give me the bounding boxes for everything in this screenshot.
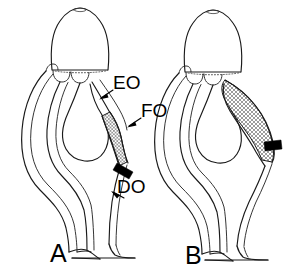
panel-label-b: B bbox=[185, 241, 202, 269]
anatomical-line-drawing: EO FO DO A B bbox=[0, 0, 287, 274]
annotation-do: DO bbox=[111, 176, 146, 199]
label-fo: FO bbox=[141, 100, 167, 121]
figure-background bbox=[0, 0, 287, 274]
figure-container: EO FO DO A B bbox=[0, 0, 287, 274]
panel-label-a: A bbox=[50, 239, 67, 267]
label-do: DO bbox=[117, 176, 146, 197]
solid-arrowhead-b bbox=[264, 140, 282, 151]
label-eo: EO bbox=[113, 72, 140, 93]
